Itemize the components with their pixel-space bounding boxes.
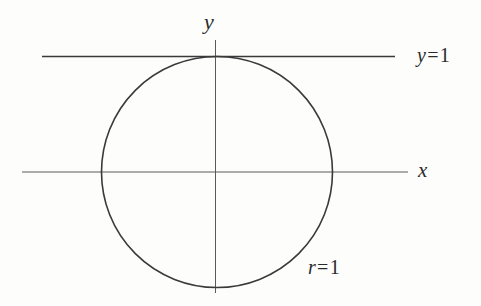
line-label-operator: = (426, 44, 440, 66)
circle-label-variable: r (308, 256, 316, 278)
y-axis-label: y (204, 11, 214, 33)
figure-container: y x y=1 r=1 (0, 0, 481, 306)
geometry-figure (0, 0, 481, 306)
line-label-variable: y (417, 44, 426, 66)
x-axis-label-text: x (418, 158, 427, 182)
line-label-value: 1 (440, 44, 450, 66)
line-y-equals-1-label: y=1 (417, 45, 450, 65)
x-axis-label: x (418, 160, 427, 181)
circle-label-value: 1 (330, 256, 340, 278)
circle-label-operator: = (316, 256, 330, 278)
y-axis-label-text: y (204, 9, 214, 34)
circle-r-equals-1-label: r=1 (308, 257, 340, 277)
